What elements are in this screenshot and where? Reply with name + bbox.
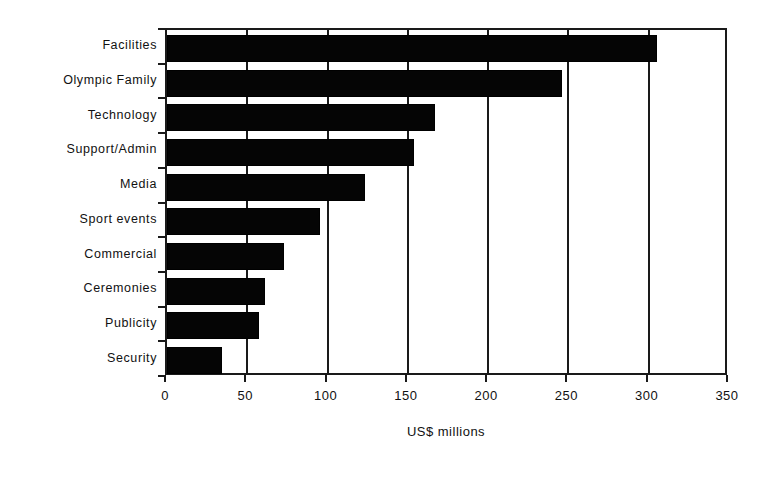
y-axis-label: Commercial (0, 247, 157, 261)
y-axis-label: Security (0, 351, 157, 365)
x-axis-tick (646, 375, 648, 382)
y-axis-tick (158, 167, 165, 169)
bar-facilities (167, 35, 657, 62)
y-axis-labels: FacilitiesOlympic FamilyTechnologySuppor… (0, 28, 157, 375)
y-axis-label: Publicity (0, 316, 157, 330)
y-axis-label: Facilities (0, 38, 157, 52)
x-axis-title: US$ millions (165, 424, 727, 439)
y-axis-tick (158, 202, 165, 204)
bar-commercial (167, 243, 284, 270)
y-axis-tick (158, 271, 165, 273)
x-axis-tick (726, 375, 728, 382)
y-axis-label: Technology (0, 108, 157, 122)
bar-security (167, 347, 222, 374)
y-axis-tick (158, 132, 165, 134)
bar-sport-events (167, 208, 320, 235)
bar-media (167, 174, 365, 201)
x-axis-tick-label: 100 (296, 388, 356, 403)
x-axis-tick-label: 50 (215, 388, 275, 403)
y-axis-label: Ceremonies (0, 281, 157, 295)
bars-layer (167, 30, 725, 373)
y-axis-label: Sport events (0, 212, 157, 226)
bar-technology (167, 104, 435, 131)
bar-ceremonies (167, 278, 265, 305)
y-axis-label: Olympic Family (0, 73, 157, 87)
x-axis-tick-label: 250 (536, 388, 596, 403)
y-axis-tick (158, 63, 165, 65)
x-axis-tick-label: 300 (617, 388, 677, 403)
bar-olympic-family (167, 70, 562, 97)
x-axis-tick (164, 375, 166, 382)
x-axis-tick-label: 0 (135, 388, 195, 403)
bar-support-admin (167, 139, 414, 166)
y-axis-tick (158, 97, 165, 99)
x-axis-tick (244, 375, 246, 382)
bar-publicity (167, 312, 259, 339)
y-axis-tick (158, 236, 165, 238)
plot-area (165, 28, 727, 375)
bar-chart: FacilitiesOlympic FamilyTechnologySuppor… (0, 0, 778, 480)
y-axis-tick (158, 28, 165, 30)
x-axis-tick (565, 375, 567, 382)
x-axis-tick-label: 150 (376, 388, 436, 403)
y-axis-tick (158, 340, 165, 342)
y-axis-label: Media (0, 177, 157, 191)
x-axis-tick (325, 375, 327, 382)
x-axis-tick (485, 375, 487, 382)
x-axis-tick-label: 200 (456, 388, 516, 403)
x-axis-tick (405, 375, 407, 382)
y-axis-tick (158, 306, 165, 308)
x-axis-tick-label: 350 (697, 388, 757, 403)
y-axis-label: Support/Admin (0, 142, 157, 156)
